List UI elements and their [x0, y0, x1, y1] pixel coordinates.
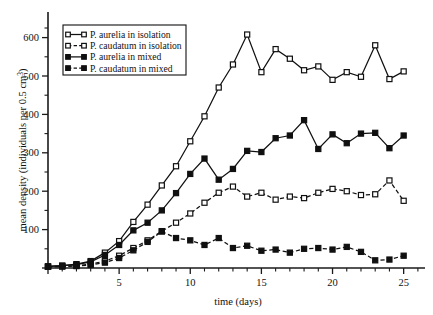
x-axis-title: time (days): [214, 296, 262, 308]
series-line: [48, 232, 404, 267]
data-point: [159, 183, 164, 188]
legend-marker: [66, 55, 71, 60]
data-point: [330, 186, 335, 191]
data-point: [188, 238, 193, 243]
data-point: [202, 242, 207, 247]
data-point: [202, 200, 207, 205]
data-point: [173, 236, 178, 241]
data-point: [131, 228, 136, 233]
data-point: [60, 264, 65, 269]
data-point: [117, 242, 122, 247]
data-point: [302, 68, 307, 73]
data-point: [202, 156, 207, 161]
data-point: [344, 244, 349, 249]
data-point: [358, 131, 363, 136]
data-point: [273, 247, 278, 252]
data-point: [145, 239, 150, 244]
data-point: [401, 133, 406, 138]
x-tick-label: 25: [398, 277, 409, 288]
data-point: [259, 149, 264, 154]
svg-text:mean density (individuals per: mean density (individuals per 0.5 cm3): [16, 68, 29, 231]
x-tick-label: 5: [117, 277, 122, 288]
data-point: [245, 243, 250, 248]
data-point: [302, 196, 307, 201]
data-point: [216, 190, 221, 195]
data-point: [302, 246, 307, 251]
data-point: [173, 164, 178, 169]
x-tick-label: 15: [256, 277, 267, 288]
data-point: [173, 220, 178, 225]
data-point: [259, 248, 264, 253]
data-point: [401, 69, 406, 74]
data-point: [287, 194, 292, 199]
data-point: [230, 166, 235, 171]
legend-marker: [66, 43, 71, 48]
data-point: [245, 32, 250, 37]
x-tick-label: 10: [185, 277, 196, 288]
figure-container: 510152025100200300400500600 P. aurelia i…: [0, 0, 433, 315]
y-axis-title: mean density (individuals per 0.5 cm3): [16, 68, 29, 231]
data-point: [131, 219, 136, 224]
legend-marker: [66, 32, 71, 37]
data-point: [117, 255, 122, 260]
data-point: [387, 146, 392, 151]
data-point: [202, 114, 207, 119]
data-point: [45, 264, 50, 269]
data-point: [159, 229, 164, 234]
data-point: [131, 248, 136, 253]
data-point: [387, 178, 392, 183]
data-point: [387, 257, 392, 262]
data-point: [159, 208, 164, 213]
legend-marker: [82, 43, 87, 48]
data-point: [216, 85, 221, 90]
data-point: [245, 194, 250, 199]
legend-item-label: P. aurelia in mixed: [90, 51, 162, 62]
y-tick-label: 600: [23, 32, 39, 43]
data-point: [358, 192, 363, 197]
series-line: [48, 180, 404, 266]
data-point: [330, 132, 335, 137]
data-point: [188, 211, 193, 216]
data-point: [287, 250, 292, 255]
data-point: [188, 139, 193, 144]
data-point: [330, 77, 335, 82]
data-point: [230, 184, 235, 189]
legend-item-label: P. caudatum in isolation: [90, 40, 182, 51]
data-point: [302, 118, 307, 123]
data-point: [230, 245, 235, 250]
data-point: [188, 171, 193, 176]
data-point: [373, 43, 378, 48]
data-point: [287, 56, 292, 61]
data-point: [273, 47, 278, 52]
data-point: [245, 148, 250, 153]
data-point: [316, 245, 321, 250]
series-line: [48, 120, 404, 266]
legend-item-label: P. caudatum in mixed: [90, 63, 173, 74]
data-point: [102, 252, 107, 257]
series-2: [45, 118, 406, 269]
data-point: [401, 253, 406, 258]
data-point: [74, 264, 79, 269]
data-point: [316, 190, 321, 195]
series-3: [45, 229, 406, 269]
data-point: [216, 236, 221, 241]
x-tick-label: 20: [327, 277, 338, 288]
data-point: [358, 249, 363, 254]
data-point: [230, 62, 235, 67]
data-point: [387, 77, 392, 82]
legend-item-label: P. aurelia in isolation: [90, 29, 171, 40]
data-point: [373, 258, 378, 263]
data-point: [344, 189, 349, 194]
data-point: [102, 260, 107, 265]
data-point: [259, 70, 264, 75]
data-point: [273, 136, 278, 141]
data-point: [287, 133, 292, 138]
data-point: [344, 70, 349, 75]
legend-marker: [82, 66, 87, 71]
data-point: [373, 192, 378, 197]
line-chart: 510152025100200300400500600 P. aurelia i…: [0, 0, 433, 315]
data-point: [344, 141, 349, 146]
data-point: [88, 262, 93, 267]
data-point: [401, 198, 406, 203]
legend-marker: [82, 55, 87, 60]
